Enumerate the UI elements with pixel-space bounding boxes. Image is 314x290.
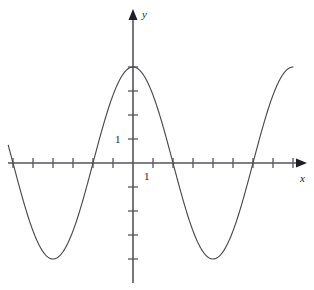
coordinate-plane: y x 1 1 — [0, 0, 314, 290]
x-unit-tick-label: 1 — [144, 170, 150, 182]
y-axis-arrowhead — [129, 9, 138, 20]
x-axis-label: x — [299, 172, 305, 184]
graph-figure: y x 1 1 — [0, 0, 314, 290]
x-axis-arrowhead — [296, 159, 307, 168]
y-axis-label: y — [141, 8, 147, 20]
y-unit-tick-label: 1 — [115, 133, 121, 145]
